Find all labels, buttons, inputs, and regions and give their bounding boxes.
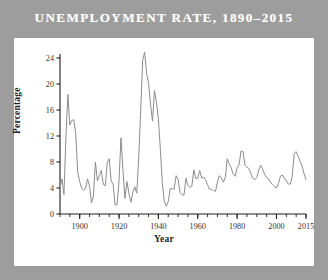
x-tick-label: 1980 (229, 222, 245, 231)
chart-panel: 048121620241900192019401960198020002015 … (14, 38, 314, 266)
chart-title: UNEMPLOYMENT RATE, 1890–2015 (35, 10, 294, 26)
x-tick-label: 1900 (71, 222, 87, 231)
y-axis-title: Percentage (12, 87, 22, 134)
y-tick-label: 12 (46, 132, 54, 141)
figure: UNEMPLOYMENT RATE, 1890–2015 04812162024… (0, 0, 328, 280)
plot-area: 048121620241900192019401960198020002015 … (14, 38, 314, 266)
x-tick-label: 2015 (298, 222, 314, 231)
y-tick-label: 8 (50, 158, 54, 167)
y-tick-label: 16 (46, 106, 54, 115)
x-tick-label: 2000 (268, 222, 284, 231)
y-tick-label: 0 (50, 210, 54, 219)
y-tick-label: 24 (46, 54, 54, 63)
data-line (60, 52, 306, 206)
y-tick-label: 20 (46, 80, 54, 89)
title-band: UNEMPLOYMENT RATE, 1890–2015 (0, 0, 328, 36)
x-tick-label: 1920 (111, 222, 127, 231)
line-chart-svg: 048121620241900192019401960198020002015 (14, 38, 314, 266)
x-tick-label: 1940 (150, 222, 166, 231)
x-axis-title: Year (14, 234, 314, 244)
y-tick-label: 4 (50, 184, 54, 193)
x-tick-label: 1960 (190, 222, 206, 231)
